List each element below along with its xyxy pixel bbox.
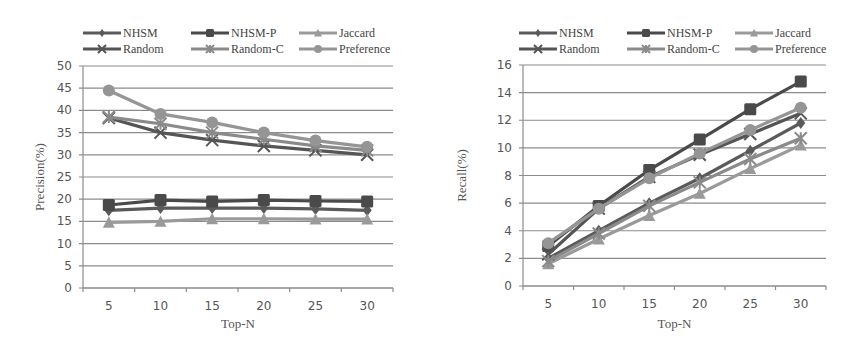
legend-label: Random-C — [231, 42, 284, 56]
x-tick-label: 20 — [692, 297, 707, 311]
legend: NHSMNHSM-PJaccardRandomRandom-CPreferenc… — [519, 26, 826, 56]
x-tick-label: 25 — [308, 299, 323, 313]
legend-item-nhsm-p: NHSM-P — [191, 26, 277, 40]
legend-item-nhsm: NHSM — [519, 26, 594, 40]
series-random — [542, 107, 807, 260]
circle-marker-icon — [750, 45, 758, 53]
legend-label: NHSM — [559, 26, 594, 40]
square-marker-icon — [206, 29, 214, 37]
series-line — [109, 200, 367, 205]
circle-marker-icon — [593, 203, 605, 215]
precision-chart: 0510152025303540455051015202530Top-NPrec… — [0, 0, 426, 346]
legend-label: Random — [559, 42, 600, 56]
legend-label: Jaccard — [775, 26, 811, 40]
square-marker-icon — [103, 199, 115, 211]
square-marker-icon — [155, 194, 167, 206]
x-tick-label: 10 — [153, 299, 168, 313]
legend-label: NHSM-P — [667, 26, 713, 40]
series-line — [548, 113, 801, 254]
legend-item-nhsm-p: NHSM-P — [627, 26, 713, 40]
legend-item-jaccard: Jaccard — [299, 26, 375, 40]
legend-item-random: Random — [519, 42, 600, 56]
square-marker-icon — [642, 29, 650, 37]
y-tick-label: 10 — [57, 237, 72, 251]
series-line — [548, 145, 801, 264]
series-line — [109, 90, 367, 146]
diamond-marker-icon — [796, 117, 805, 129]
legend-item-preference: Preference — [299, 42, 390, 56]
x-tick-label: 10 — [591, 297, 606, 311]
legend-label: Preference — [339, 42, 390, 56]
x-axis-title: Top-N — [658, 316, 692, 331]
precision-chart-canvas: 0510152025303540455051015202530Top-NPrec… — [0, 0, 426, 346]
legend-label: Random — [123, 42, 164, 56]
circle-marker-icon — [314, 45, 322, 53]
y-tick-label: 4 — [504, 224, 512, 238]
y-tick-label: 14 — [497, 86, 512, 100]
y-tick-label: 12 — [497, 113, 512, 127]
circle-marker-icon — [155, 108, 167, 120]
x-tick-label: 20 — [256, 299, 271, 313]
legend: NHSMNHSM-PJaccardRandomRandom-CPreferenc… — [83, 26, 390, 56]
legend-item-nhsm: NHSM — [83, 26, 158, 40]
recall-chart-canvas: 024681012141651015202530Top-NRecall(%)NH… — [426, 0, 852, 346]
y-tick-label: 2 — [504, 251, 512, 265]
legend-label: NHSM-P — [231, 26, 277, 40]
square-marker-icon — [258, 194, 270, 206]
legend-label: NHSM — [123, 26, 158, 40]
diamond-marker-icon — [535, 29, 541, 37]
legend-label: Random-C — [667, 42, 720, 56]
x-tick-label: 25 — [743, 297, 758, 311]
square-marker-icon — [206, 195, 218, 207]
y-tick-label: 0 — [504, 279, 512, 293]
x-tick-label: 5 — [544, 297, 552, 311]
star-marker-icon — [694, 176, 706, 188]
y-tick-label: 16 — [497, 58, 512, 72]
square-marker-icon — [694, 134, 706, 146]
x-tick-label: 15 — [205, 299, 220, 313]
series-group — [542, 76, 807, 270]
y-tick-label: 50 — [57, 59, 72, 73]
circle-marker-icon — [310, 135, 322, 147]
circle-marker-icon — [795, 102, 807, 114]
legend-item-jaccard: Jaccard — [735, 26, 811, 40]
legend-label: Jaccard — [339, 26, 375, 40]
series-jaccard — [103, 213, 373, 228]
x-axis-title: Top-N — [221, 316, 255, 331]
circle-marker-icon — [744, 124, 756, 136]
circle-marker-icon — [694, 147, 706, 159]
x-tick-label: 5 — [105, 299, 113, 313]
series-line — [109, 208, 367, 210]
y-tick-label: 40 — [57, 103, 72, 117]
y-tick-label: 35 — [57, 126, 72, 140]
circle-marker-icon — [643, 172, 655, 184]
y-tick-label: 0 — [64, 281, 72, 295]
y-tick-label: 45 — [57, 81, 72, 95]
legend-label: Preference — [775, 42, 826, 56]
circle-marker-icon — [103, 84, 115, 96]
y-tick-label: 10 — [497, 141, 512, 155]
series-jaccard — [542, 139, 807, 269]
circle-marker-icon — [258, 127, 270, 139]
legend-item-random: Random — [83, 42, 164, 56]
square-marker-icon — [795, 76, 807, 88]
x-tick-label: 30 — [360, 299, 375, 313]
series-nhsm — [104, 202, 371, 216]
y-axis-title: Precision(%) — [32, 143, 47, 211]
series-random-c — [103, 111, 373, 156]
square-marker-icon — [361, 195, 373, 207]
legend-item-random-c: Random-C — [627, 42, 720, 56]
legend-item-random-c: Random-C — [191, 42, 284, 56]
square-marker-icon — [310, 195, 322, 207]
recall-chart: 024681012141651015202530Top-NRecall(%)NH… — [426, 0, 852, 346]
series-line — [109, 117, 367, 150]
diamond-marker-icon — [99, 29, 105, 37]
y-tick-label: 6 — [504, 196, 512, 210]
series-group — [103, 84, 373, 227]
y-tick-label: 25 — [57, 170, 72, 184]
circle-marker-icon — [542, 237, 554, 249]
legend-item-preference: Preference — [735, 42, 826, 56]
circle-marker-icon — [206, 116, 218, 128]
x-tick-label: 30 — [793, 297, 808, 311]
y-axis-title: Recall(%) — [454, 149, 469, 202]
